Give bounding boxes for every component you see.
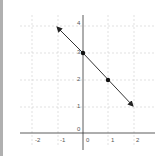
svg-text:0: 0 [86, 137, 90, 143]
grid [20, 15, 155, 145]
svg-text:2: 2 [136, 137, 140, 143]
y-tick-labels: 0 1 2 3 4 [77, 20, 81, 132]
svg-text:1: 1 [77, 103, 81, 109]
x-tick-labels: -2 -1 0 1 2 [35, 137, 140, 143]
data-point [81, 51, 85, 55]
data-point [106, 78, 110, 82]
data-line [57, 27, 83, 53]
coordinate-graph: -2 -1 0 1 2 0 1 2 3 4 [0, 0, 168, 156]
svg-text:4: 4 [77, 20, 81, 26]
svg-text:-2: -2 [35, 137, 41, 143]
svg-text:2: 2 [77, 76, 81, 82]
svg-text:-1: -1 [60, 137, 66, 143]
svg-text:1: 1 [111, 137, 115, 143]
svg-text:0: 0 [77, 126, 81, 132]
